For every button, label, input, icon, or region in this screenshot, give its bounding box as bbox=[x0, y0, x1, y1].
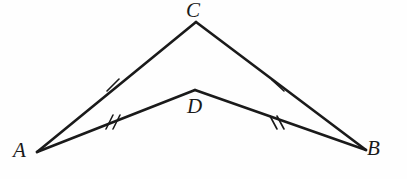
segment-DB bbox=[195, 90, 366, 150]
geometry-canvas bbox=[0, 0, 407, 179]
geometry-figure: A B C D bbox=[0, 0, 407, 179]
vertex-label-B: B bbox=[367, 138, 380, 159]
segment-CB bbox=[196, 22, 366, 150]
vertex-label-A: A bbox=[13, 140, 26, 161]
segment-AD bbox=[37, 90, 195, 152]
vertex-label-D: D bbox=[187, 96, 202, 117]
segment-AC bbox=[37, 22, 196, 152]
vertex-label-C: C bbox=[186, 0, 200, 21]
